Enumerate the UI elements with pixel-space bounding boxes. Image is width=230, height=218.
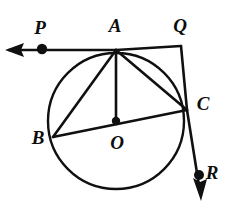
point-label-B: B <box>32 128 45 147</box>
chord-segment-AC <box>116 50 187 110</box>
point-dot-P <box>37 44 47 54</box>
point-label-P: P <box>34 18 46 37</box>
tangent-segment-AQ <box>116 46 181 50</box>
chord-segment-AB <box>53 50 116 137</box>
point-label-O: O <box>110 133 124 152</box>
point-label-A: A <box>109 16 122 35</box>
point-label-Q: Q <box>173 16 187 35</box>
point-dot-O <box>112 117 120 125</box>
point-dot-R <box>194 170 204 180</box>
point-label-R: R <box>206 163 219 182</box>
geometry-figure: P A Q C B O R <box>0 0 230 218</box>
point-label-C: C <box>197 94 210 113</box>
